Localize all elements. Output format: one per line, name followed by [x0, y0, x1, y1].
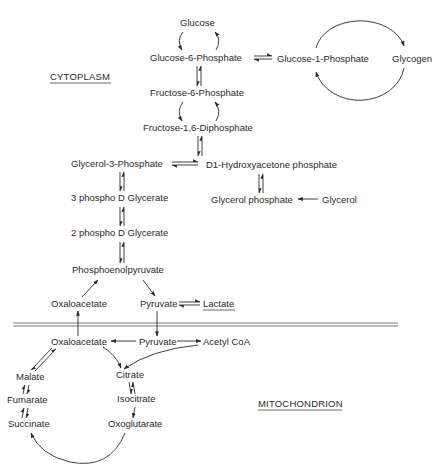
node-oxoglutarate: Oxoglutarate	[108, 418, 162, 429]
node-pyruvate-cytoplasm: Pyruvate	[140, 298, 178, 309]
node-fumarate: Fumarate	[7, 394, 48, 405]
node-acetyl-coa: Acetyl CoA	[203, 336, 251, 347]
node-isocitrate: Isocitrate	[117, 393, 156, 404]
node-oxaloacetate-cytoplasm: Oxaloacetate	[51, 298, 107, 309]
node-glucose-1-phosphate: Glucose-1-Phosphate	[277, 53, 369, 64]
node-fructose-6-phosphate: Fructose-6-Phosphate	[150, 87, 244, 98]
metabolic-pathway-diagram: CYTOPLASM MITOCHONDRION Glucose Glucose-…	[0, 0, 438, 472]
node-oxaloacetate-mitochondrion: Oxaloacetate	[51, 336, 107, 347]
node-glycerol-3-phosphate: Glycerol-3-Phosphate	[71, 158, 163, 169]
node-fructose-1-6-diphosphate: Fructose-1,6-Diphosphate	[143, 122, 253, 133]
mitochondrial-membrane	[13, 323, 398, 326]
region-label-mitochondrion: MITOCHONDRION	[258, 398, 343, 409]
node-glucose: Glucose	[180, 17, 215, 28]
node-3-phospho-d-glycerate: 3 phospho D Glycerate	[71, 192, 168, 203]
node-succinate: Succinate	[8, 418, 50, 429]
node-glycerol: Glycerol	[322, 194, 357, 205]
node-citrate: Citrate	[116, 369, 144, 380]
node-glucose-6-phosphate: Glucose-6-Phosphate	[150, 52, 242, 63]
node-phosphoenolpyruvate: Phosphoenolpyruvate	[72, 264, 164, 275]
node-dihydroxyacetone-phosphate: D1-Hydroxyacetone phosphate	[206, 159, 337, 170]
node-lactate: Lactate	[203, 298, 234, 309]
node-malate: Malate	[16, 371, 45, 382]
node-glycerol-phosphate: Glycerol phosphate	[211, 194, 293, 205]
node-2-phospho-d-glycerate: 2 phospho D Glycerate	[71, 227, 168, 238]
node-pyruvate-mitochondrion: Pyruvate	[139, 336, 177, 347]
region-label-cytoplasm: CYTOPLASM	[50, 71, 110, 82]
node-glycogen: Glycogen	[392, 53, 432, 64]
